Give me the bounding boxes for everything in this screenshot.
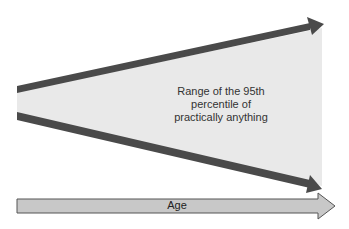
range-label-line-3: practically anything	[158, 111, 284, 124]
age-axis-label: Age	[150, 198, 204, 213]
diagram-canvas: Range of the 95th percentile of practica…	[0, 0, 349, 229]
range-label-line-2: percentile of	[158, 98, 284, 111]
range-label: Range of the 95th percentile of practica…	[158, 85, 284, 124]
range-label-line-1: Range of the 95th	[158, 85, 284, 98]
